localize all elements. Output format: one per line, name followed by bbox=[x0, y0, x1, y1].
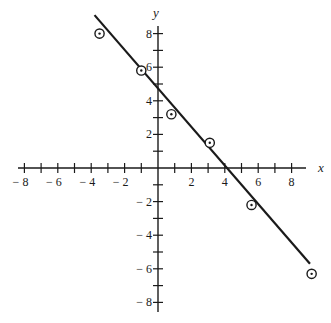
marker-dot bbox=[209, 142, 211, 144]
y-tick-label: 2 bbox=[146, 127, 152, 141]
x-axis-tick-labels: − 8− 6− 4− 22468 bbox=[13, 175, 295, 189]
x-tick-label: 4 bbox=[222, 175, 228, 189]
y-tick-label: 8 bbox=[146, 27, 152, 41]
x-tick-label: 2 bbox=[188, 175, 194, 189]
y-tick-label: − 4 bbox=[136, 228, 152, 242]
marker-dot bbox=[170, 113, 172, 115]
regression-line bbox=[95, 15, 310, 264]
data-point-marker bbox=[137, 66, 146, 75]
data-point-marker bbox=[95, 29, 104, 38]
y-tick-label: − 6 bbox=[136, 262, 152, 276]
data-point-marker bbox=[307, 269, 316, 278]
data-point-marker bbox=[205, 138, 214, 147]
y-tick-label: − 8 bbox=[136, 295, 152, 309]
marker-dot bbox=[98, 32, 100, 34]
x-tick-label: − 2 bbox=[113, 175, 129, 189]
scatter-plot: − 8− 6− 4− 22468 8642− 2− 4− 6− 8 x y bbox=[0, 0, 331, 323]
data-point-marker bbox=[247, 200, 256, 209]
y-axis-label: y bbox=[151, 5, 159, 20]
data-points bbox=[95, 29, 316, 278]
x-tick-label: − 4 bbox=[79, 175, 95, 189]
marker-dot bbox=[250, 204, 252, 206]
data-point-marker bbox=[167, 110, 176, 119]
x-tick-label: − 8 bbox=[13, 175, 29, 189]
marker-dot bbox=[310, 273, 312, 275]
marker-dot bbox=[140, 69, 142, 71]
x-axis-label: x bbox=[317, 160, 324, 175]
x-tick-label: − 6 bbox=[46, 175, 62, 189]
y-tick-label: − 2 bbox=[136, 195, 152, 209]
y-tick-label: 4 bbox=[146, 94, 152, 108]
y-tick-label: 6 bbox=[146, 60, 152, 74]
x-tick-label: 6 bbox=[255, 175, 261, 189]
fitted-line bbox=[95, 15, 310, 264]
x-tick-label: 8 bbox=[289, 175, 295, 189]
